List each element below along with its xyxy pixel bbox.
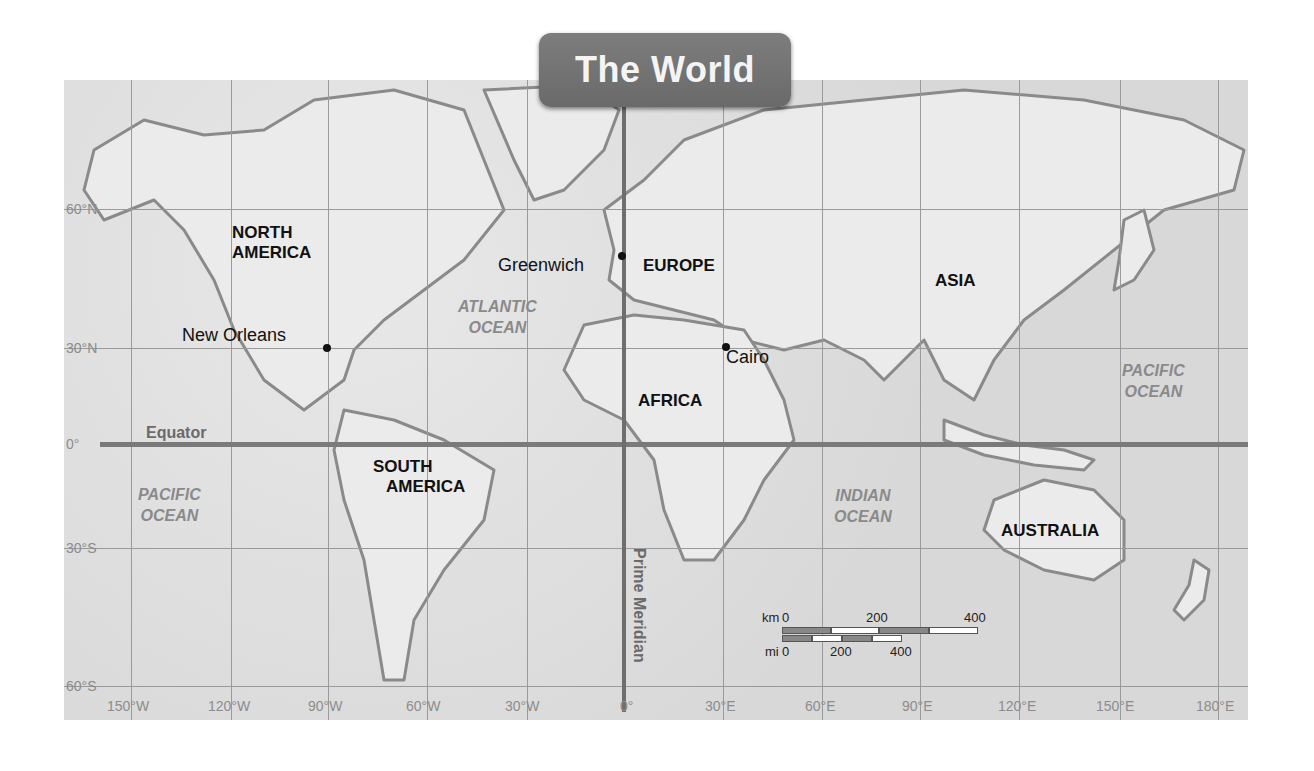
map-title: The World — [575, 49, 755, 91]
lon-label-30e: 30°E — [705, 698, 736, 714]
meridian-30w — [527, 80, 528, 720]
lon-label-90e: 90°E — [902, 698, 933, 714]
scale-km-200: 200 — [866, 610, 888, 625]
scale-km-segment-2 — [831, 627, 879, 634]
lon-label-90w: 90°W — [308, 698, 342, 714]
scale-km-segment-1 — [782, 627, 831, 634]
label-asia: ASIA — [935, 271, 976, 291]
lon-label-60w: 60°W — [406, 698, 440, 714]
label-australia: AUSTRALIA — [1001, 521, 1099, 541]
label-pacific-ocean-west: PACIFIC OCEAN — [138, 484, 201, 526]
parallel-60s — [64, 686, 1248, 687]
lon-label-30w: 30°W — [505, 698, 539, 714]
label-new-orleans: New Orleans — [182, 325, 286, 346]
meridian-150w — [131, 80, 132, 720]
meridian-120e — [1019, 80, 1020, 720]
scale-km-segment-3 — [879, 627, 929, 634]
label-europe: EUROPE — [643, 256, 715, 276]
label-north-america: NORTH AMERICA — [232, 223, 311, 263]
parallel-30s — [64, 548, 1248, 549]
city-dot-cairo[interactable] — [722, 343, 730, 351]
lat-label-60n: 60°N — [66, 201, 97, 217]
prime-meridian-label: Prime Meridian — [630, 548, 648, 663]
meridian-90w — [328, 80, 329, 720]
lat-label-30n: 30°N — [66, 340, 97, 356]
label-africa: AFRICA — [638, 391, 702, 411]
equator-label: Equator — [146, 424, 206, 442]
scale-mi-0: 0 — [782, 644, 789, 659]
label-pacific-ocean-east: PACIFIC OCEAN — [1122, 360, 1185, 402]
lat-label-30s: 30°S — [66, 540, 97, 556]
parallel-60n — [64, 209, 1248, 210]
lon-label-0: 0° — [620, 698, 633, 714]
scale-mi-segment-1 — [782, 635, 812, 642]
lon-label-120w: 120°W — [208, 698, 250, 714]
map-title-tab: The World — [539, 33, 791, 107]
lat-label-0: 0° — [66, 436, 79, 452]
scale-mi-200: 200 — [830, 644, 852, 659]
scale-mi-400: 400 — [890, 644, 912, 659]
lon-label-150e: 150°E — [1096, 698, 1134, 714]
scale-mi-segment-4 — [872, 635, 902, 642]
scale-km-unit: km — [762, 610, 779, 625]
new-zealand-shape — [1174, 560, 1209, 620]
city-dot-new-orleans[interactable] — [323, 344, 331, 352]
lon-label-150w: 150°W — [107, 698, 149, 714]
equator-line — [100, 442, 1248, 447]
lat-label-60s: 60°S — [66, 678, 97, 694]
prime-meridian-line — [622, 82, 626, 712]
label-cairo: Cairo — [726, 347, 769, 368]
scale-mi-segment-3 — [842, 635, 872, 642]
lon-label-180e: 180°E — [1196, 698, 1234, 714]
meridian-60w — [427, 80, 428, 720]
scale-mi-segment-2 — [812, 635, 842, 642]
meridian-120w — [231, 80, 232, 720]
label-atlantic-ocean: ATLANTIC OCEAN — [458, 296, 537, 338]
south-america-shape — [334, 410, 494, 680]
label-south-america: SOUTH AMERICA — [373, 457, 465, 497]
scale-mi-unit: mi — [765, 644, 779, 659]
scale-km-400: 400 — [964, 610, 986, 625]
scale-km-0: 0 — [782, 610, 789, 625]
meridian-150e — [1120, 80, 1121, 720]
scale-km-segment-4 — [929, 627, 978, 634]
city-dot-greenwich[interactable] — [618, 252, 626, 260]
lon-label-60e: 60°E — [805, 698, 836, 714]
meridian-180e — [1218, 80, 1219, 720]
scale-bar: km 0 200 400 mi 0 200 400 — [760, 610, 1000, 670]
label-greenwich: Greenwich — [498, 255, 584, 276]
label-indian-ocean: INDIAN OCEAN — [834, 485, 892, 527]
parallel-30n — [64, 348, 1248, 349]
meridian-30e — [723, 80, 724, 720]
lon-label-120e: 120°E — [998, 698, 1036, 714]
